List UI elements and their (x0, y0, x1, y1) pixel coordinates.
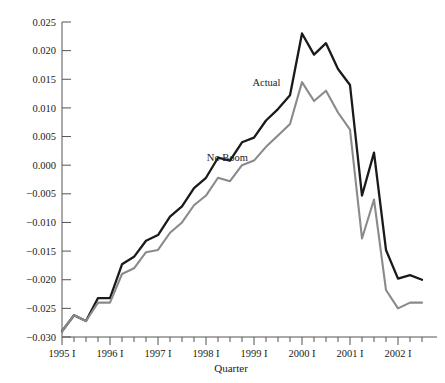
series-line-no-boom (62, 82, 422, 331)
y-tick-label: −0.010 (26, 217, 56, 228)
y-tick-label: 0.025 (32, 17, 56, 28)
x-tick-label: 2000 I (288, 348, 316, 359)
y-tick-label: −0.015 (26, 246, 56, 257)
y-tick-label: 0.020 (32, 45, 56, 56)
y-tick-label: 0.010 (32, 103, 56, 114)
y-tick-label: 0.005 (32, 131, 56, 142)
y-tick-label: 0.000 (32, 160, 56, 171)
y-tick-label: −0.020 (26, 274, 56, 285)
x-tick-label: 1998 I (192, 348, 220, 359)
y-tick-label: −0.025 (26, 303, 56, 314)
x-axis: 1995 I1996 I1997 I1998 I1999 I2000 I2001… (48, 337, 437, 359)
x-axis-title: Quarter (214, 362, 248, 374)
x-tick-label: 1997 I (144, 348, 172, 359)
x-tick-label: 1999 I (240, 348, 268, 359)
x-tick-group (62, 337, 422, 345)
series-label-actual: Actual (252, 77, 280, 88)
y-tick-label: −0.030 (26, 332, 56, 343)
line-chart: 0.0250.0200.0150.0100.0050.000−0.005−0.0… (0, 0, 445, 383)
y-tick-label: −0.005 (26, 188, 56, 199)
x-tick-label: 2002 I (384, 348, 412, 359)
series-label-no-boom: No Boom (207, 152, 248, 163)
x-tick-label: 1995 I (48, 348, 76, 359)
series-group (62, 33, 422, 331)
series-annotation-group: ActualNo Boom (207, 77, 281, 162)
y-tick-label-group: 0.0250.0200.0150.0100.0050.000−0.005−0.0… (26, 17, 56, 343)
chart-container: 0.0250.0200.0150.0100.0050.000−0.005−0.0… (0, 0, 445, 383)
x-tick-label-group: 1995 I1996 I1997 I1998 I1999 I2000 I2001… (48, 348, 412, 359)
y-axis: 0.0250.0200.0150.0100.0050.000−0.005−0.0… (26, 17, 71, 343)
x-tick-label: 1996 I (96, 348, 124, 359)
x-tick-label: 2001 I (336, 348, 364, 359)
y-tick-group (62, 22, 71, 337)
y-tick-label: 0.015 (32, 74, 56, 85)
